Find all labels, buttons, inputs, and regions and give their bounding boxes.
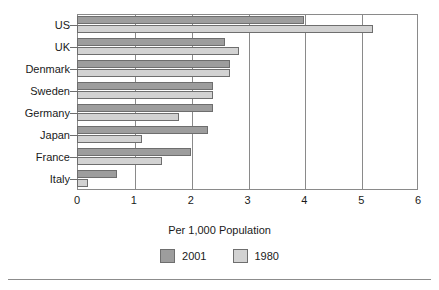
x-tick-label-3: 3	[236, 195, 260, 206]
bar-france-1980	[77, 157, 162, 165]
bar-japan-2001	[77, 126, 208, 134]
y-tick-2	[70, 69, 77, 70]
bar-germany-2001	[77, 104, 213, 112]
legend-label-1980: 1980	[255, 251, 279, 262]
x-tick-label-1: 1	[122, 195, 146, 206]
x-tick-label-5: 5	[349, 195, 373, 206]
x-tick-label-0: 0	[65, 195, 89, 206]
y-tick-7	[70, 179, 77, 180]
bar-group-sweden	[77, 80, 418, 102]
bar-uk-1980	[77, 47, 239, 55]
x-tick-label-6: 6	[406, 195, 430, 206]
y-axis-label-uk: UK	[55, 42, 70, 53]
bar-uk-2001	[77, 38, 225, 46]
y-tick-4	[70, 113, 77, 114]
y-axis-label-sweden: Sweden	[30, 86, 70, 97]
legend-item-2001: 2001	[160, 249, 206, 263]
bar-sweden-1980	[77, 91, 213, 99]
y-axis-label-japan: Japan	[40, 130, 70, 141]
x-axis-title: Per 1,000 Population	[0, 224, 439, 236]
bar-germany-1980	[77, 113, 179, 121]
bar-japan-1980	[77, 135, 142, 143]
y-axis-label-italy: Italy	[50, 174, 70, 185]
y-tick-1	[70, 47, 77, 48]
y-tick-6	[70, 157, 77, 158]
bar-group-japan	[77, 124, 418, 146]
bar-denmark-1980	[77, 69, 230, 77]
y-axis-label-france: France	[36, 152, 70, 163]
bar-group-us	[77, 14, 418, 36]
y-axis-label-denmark: Denmark	[25, 64, 70, 75]
horizontal-bar-chart: US UK Denmark Sweden Germany Japan Franc…	[0, 0, 439, 290]
y-axis-label-germany: Germany	[25, 108, 70, 119]
bar-france-2001	[77, 148, 191, 156]
bar-sweden-2001	[77, 82, 213, 90]
bar-group-uk	[77, 36, 418, 58]
legend-item-1980: 1980	[233, 249, 279, 263]
x-tick-label-4: 4	[292, 195, 316, 206]
bar-group-france	[77, 146, 418, 168]
bar-group-germany	[77, 102, 418, 124]
y-tick-0	[70, 25, 77, 26]
bar-italy-1980	[77, 179, 88, 187]
x-tick-label-2: 2	[179, 195, 203, 206]
bar-denmark-2001	[77, 60, 230, 68]
legend-label-2001: 2001	[182, 251, 206, 262]
bar-us-2001	[77, 16, 304, 24]
legend-swatch-1980	[233, 249, 248, 263]
bottom-divider	[8, 279, 431, 280]
bar-us-1980	[77, 25, 373, 33]
chart-legend: 2001 1980	[0, 249, 439, 263]
y-axis-label-us: US	[55, 20, 70, 31]
bar-group-denmark	[77, 58, 418, 80]
bar-group-italy	[77, 168, 418, 190]
bars-layer	[77, 14, 418, 190]
y-tick-5	[70, 135, 77, 136]
legend-swatch-2001	[160, 249, 175, 263]
y-tick-3	[70, 91, 77, 92]
bar-italy-2001	[77, 170, 117, 178]
